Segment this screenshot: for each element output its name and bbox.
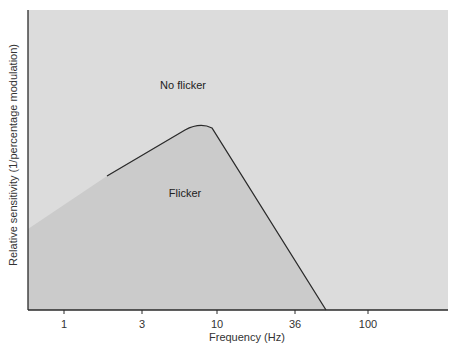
x-tick-label: 10 [211,318,223,330]
x-tick-label: 3 [139,318,145,330]
flicker-sensitivity-chart: 1 3 10 36 100 No flicker Flicker Relativ… [0,0,472,358]
x-tick-label: 100 [359,318,377,330]
flicker-label: Flicker [169,187,201,199]
y-axis-label: Relative sensitivity (1/percentage modul… [2,10,24,300]
plot-area [0,0,472,358]
no-flicker-label: No flicker [160,79,206,91]
x-tick-label: 1 [61,318,67,330]
y-axis-label-text: Relative sensitivity (1/percentage modul… [7,44,19,266]
x-axis-label-text: Frequency (Hz) [209,331,285,343]
x-tick-label: 36 [289,318,301,330]
